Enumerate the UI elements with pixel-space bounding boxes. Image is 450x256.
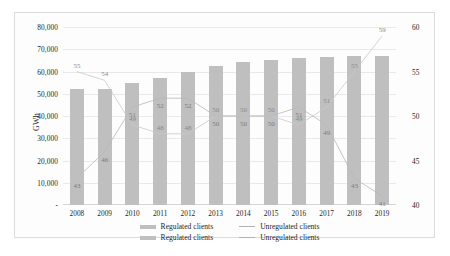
data-label: 50 [268,120,275,128]
legend-row: Regulated clients Unregulated clients [63,221,396,232]
line-swatch-icon [239,226,255,227]
x-axis-tick-label: 2008 [70,209,85,218]
legend-label: Unregulated clients [260,233,319,242]
line-series-group [63,27,396,205]
data-label: 48 [157,124,164,132]
y2-axis-tick-label: 55 [412,67,419,76]
y-axis-tick-label: 50,000 [37,89,58,98]
y2-axis-tick-label: 40 [412,201,419,210]
line-swatch-icon [239,237,255,238]
data-label: 50 [212,106,219,114]
data-label: 52 [157,102,164,110]
data-label: 51 [295,111,302,119]
data-label: 51 [129,111,136,119]
x-axis-tick-label: 2015 [264,209,279,218]
data-label: 51 [323,97,330,105]
data-label: 43 [73,182,80,190]
x-axis-tick-label: 2018 [347,209,362,218]
plot-area: -10,00020,00030,00040,00050,00060,00070,… [63,27,396,205]
data-label: 49 [323,129,330,137]
y-axis-tick-label: 80,000 [37,23,58,32]
bar-swatch-icon [140,236,156,240]
data-label: 50 [240,120,247,128]
data-label: 54 [101,70,108,78]
legend-item-regulated-bar[interactable]: Regulated clients [140,222,214,231]
y-axis-tick-label: 30,000 [37,134,58,143]
y2-axis-tick-label: 60 [412,23,419,32]
x-axis-tick-label: 2010 [125,209,140,218]
data-label: 43 [351,182,358,190]
line-path [77,98,382,196]
x-axis-tick-label: 2012 [181,209,196,218]
legend-item-regulated-line[interactable]: Regulated clients [140,233,214,242]
legend-item-unregulated-line-a[interactable]: Unregulated clients [239,222,319,231]
y-axis-tick-label: 60,000 [37,67,58,76]
data-label: 55 [73,62,80,70]
line-path [77,36,382,134]
y-axis-tick-label: 10,000 [37,178,58,187]
legend-item-unregulated-line-b[interactable]: Unregulated clients [239,233,319,242]
x-axis-tick-label: 2019 [375,209,390,218]
legend-label: Regulated clients [161,233,214,242]
legend-label: Unregulated clients [260,222,319,231]
legend-row: Regulated clients Unregulated clients [63,232,396,243]
data-label: 52 [184,102,191,110]
y-axis-tick-label: 40,000 [37,112,58,121]
y-axis-tick-label: 20,000 [37,156,58,165]
x-axis-tick-label: 2017 [319,209,334,218]
x-axis-tick-label: 2013 [208,209,223,218]
data-label: 50 [240,106,247,114]
chart-container: GWh -10,00020,00030,00040,00050,00060,00… [14,12,435,238]
y2-axis-tick-label: 45 [412,156,419,165]
x-axis-tick-label: 2016 [292,209,307,218]
data-label: 55 [351,62,358,70]
data-label: 50 [268,106,275,114]
data-label: 59 [379,26,386,34]
data-label: 48 [184,124,191,132]
data-label: 46 [101,156,108,164]
y-axis-tick-label: 70,000 [37,45,58,54]
chart-legend: Regulated clients Unregulated clients Re… [63,221,396,243]
data-label: 41 [379,200,386,208]
x-axis-tick-label: 2014 [236,209,251,218]
data-label: 50 [212,120,219,128]
y2-axis-tick-label: 50 [412,112,419,121]
bar-swatch-icon [140,225,156,229]
x-axis-tick-label: 2009 [97,209,112,218]
x-axis-tick-label: 2011 [153,209,167,218]
y-axis-tick-label: - [55,201,58,210]
legend-label: Regulated clients [161,222,214,231]
